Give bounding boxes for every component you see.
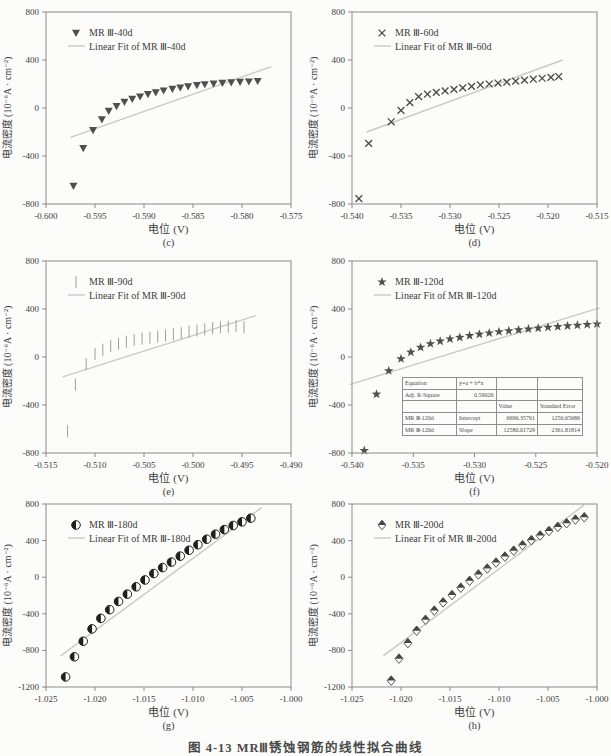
svg-text:Linear Fit of MR Ⅲ-120d: Linear Fit of MR Ⅲ-120d (395, 290, 496, 301)
legend: MR Ⅲ-60dLinear Fit of MR Ⅲ-60d (374, 27, 491, 52)
axes: -0.600-0.595-0.590-0.585-0.580-0.5758004… (23, 7, 304, 221)
axes: -1.025-1.020-1.015-1.010-1.005-1.0008004… (324, 499, 609, 704)
legend: MR Ⅲ-200dLinear Fit of MR Ⅲ-200d (374, 519, 496, 544)
svg-text:-1.000: -1.000 (585, 694, 609, 704)
chart-h-svg: -1.025-1.020-1.015-1.010-1.005-1.0008004… (306, 498, 611, 731)
y-axis-title: 电流密度 (10⁻⁶A · cm⁻²) (1, 306, 14, 409)
svg-text:-1.010: -1.010 (181, 694, 205, 704)
linear-fit-line (63, 316, 256, 377)
svg-text:-1.020: -1.020 (389, 694, 413, 704)
svg-text:电位 (V): 电位 (V) (454, 222, 494, 236)
svg-text:-1.005: -1.005 (230, 694, 254, 704)
stats-cell: MR Ⅲ-120d (403, 413, 457, 425)
svg-text:-400: -400 (23, 609, 40, 619)
svg-text:MR Ⅲ-180d: MR Ⅲ-180d (89, 519, 137, 530)
stats-cell: Standard Error (537, 401, 582, 413)
chart-c-svg: -0.600-0.595-0.590-0.585-0.580-0.5758004… (0, 0, 305, 249)
data-series (355, 73, 562, 202)
regression-stats-table: Equationy=a + b*xAdj. R-Square0.59026Val… (402, 377, 583, 436)
svg-text:(e): (e) (163, 486, 175, 498)
svg-text:0: 0 (341, 572, 346, 582)
svg-text:800: 800 (26, 256, 40, 266)
svg-text:-1.025: -1.025 (34, 694, 58, 704)
svg-text:400: 400 (332, 536, 346, 546)
svg-text:-400: -400 (329, 400, 346, 410)
stats-cell: y=a + b*x (457, 378, 497, 390)
axes: -0.540-0.535-0.530-0.525-0.520-0.5158004… (329, 7, 610, 221)
svg-text:-1200: -1200 (324, 682, 345, 692)
linear-fit-line (367, 60, 563, 132)
chart-f: -0.540-0.535-0.530-0.525-0.5208004000-40… (306, 249, 611, 498)
stats-cell (537, 378, 582, 390)
svg-text:0: 0 (35, 352, 40, 362)
svg-text:Linear Fit of MR Ⅲ-200d: Linear Fit of MR Ⅲ-200d (395, 533, 496, 544)
chart-h: -1.025-1.020-1.015-1.010-1.005-1.0008004… (306, 498, 611, 731)
svg-text:-0.515: -0.515 (585, 211, 609, 221)
svg-text:0: 0 (341, 103, 346, 113)
axes: -1.025-1.020-1.015-1.010-1.005-1.0008004… (18, 499, 303, 704)
svg-text:-800: -800 (23, 645, 40, 655)
svg-text:(h): (h) (468, 720, 481, 731)
svg-text:-0.580: -0.580 (230, 211, 254, 221)
stats-cell: 12580.01729 (496, 424, 537, 436)
svg-text:(f): (f) (469, 486, 480, 498)
stats-cell: 0.59026 (457, 389, 497, 401)
svg-text:-0.495: -0.495 (230, 460, 254, 470)
stats-cell: Intercept (457, 413, 497, 425)
svg-text:电位 (V): 电位 (V) (454, 705, 494, 719)
y-axis-title: 电流密度 (10⁻⁶A · cm⁻²) (307, 544, 320, 647)
svg-text:MR Ⅲ-120d: MR Ⅲ-120d (395, 276, 443, 287)
svg-text:-0.505: -0.505 (132, 460, 156, 470)
svg-text:-800: -800 (329, 645, 346, 655)
svg-text:-0.585: -0.585 (181, 211, 205, 221)
stats-cell (496, 378, 537, 390)
svg-text:-0.540: -0.540 (340, 211, 364, 221)
svg-text:-0.535: -0.535 (389, 211, 413, 221)
svg-text:MR Ⅲ-40d: MR Ⅲ-40d (89, 27, 132, 38)
stats-cell: 1250.65686 (537, 413, 582, 425)
y-axis-title: 电流密度 (10⁻⁶A · cm⁻²) (1, 57, 14, 160)
data-series (69, 78, 261, 190)
svg-text:-0.515: -0.515 (34, 460, 58, 470)
svg-text:Linear Fit of MR Ⅲ-40d: Linear Fit of MR Ⅲ-40d (89, 41, 185, 52)
svg-text:(c): (c) (163, 237, 175, 249)
svg-text:-1.010: -1.010 (487, 694, 511, 704)
chart-g: -1.025-1.020-1.015-1.010-1.005-1.0008004… (0, 498, 305, 731)
chart-e-svg: -0.515-0.510-0.505-0.500-0.495-0.4908004… (0, 249, 305, 498)
y-axis-title: 电流密度 (10⁻⁶A · cm⁻²) (1, 544, 14, 647)
svg-text:-0.500: -0.500 (181, 460, 205, 470)
svg-text:电位 (V): 电位 (V) (148, 471, 188, 485)
svg-text:-0.535: -0.535 (402, 460, 426, 470)
stats-cell: Adj. R-Square (403, 389, 457, 401)
svg-text:-800: -800 (23, 199, 40, 209)
stats-cell: 2361.81814 (537, 424, 582, 436)
svg-text:-0.575: -0.575 (279, 211, 303, 221)
legend: MR Ⅲ-180dLinear Fit of MR Ⅲ-180d (68, 519, 190, 544)
svg-text:-1.005: -1.005 (536, 694, 560, 704)
svg-text:-0.510: -0.510 (83, 460, 107, 470)
svg-text:-0.520: -0.520 (585, 460, 609, 470)
svg-text:-0.590: -0.590 (132, 211, 156, 221)
svg-text:-1.025: -1.025 (340, 694, 364, 704)
svg-text:MR Ⅲ-90d: MR Ⅲ-90d (89, 276, 132, 287)
svg-text:-0.600: -0.600 (34, 211, 58, 221)
svg-text:400: 400 (26, 55, 40, 65)
stats-cell (403, 401, 457, 413)
svg-text:-400: -400 (329, 609, 346, 619)
svg-text:-0.530: -0.530 (438, 211, 462, 221)
svg-text:-1.015: -1.015 (132, 694, 156, 704)
stats-cell: Value (496, 401, 537, 413)
stats-cell: MR Ⅲ-120d (403, 424, 457, 436)
legend: MR Ⅲ-120dLinear Fit of MR Ⅲ-120d (374, 276, 496, 301)
svg-text:400: 400 (26, 304, 40, 314)
stats-cell (457, 401, 497, 413)
chart-d-svg: -0.540-0.535-0.530-0.525-0.520-0.5158004… (306, 0, 611, 249)
svg-text:-1.000: -1.000 (279, 694, 303, 704)
svg-text:-1200: -1200 (18, 682, 39, 692)
svg-text:-1.020: -1.020 (83, 694, 107, 704)
axes: -0.540-0.535-0.530-0.525-0.5208004000-40… (329, 256, 610, 470)
svg-text:800: 800 (26, 499, 40, 509)
legend: MR Ⅲ-90dLinear Fit of MR Ⅲ-90d (68, 276, 185, 301)
stats-cell: Equation (403, 378, 457, 390)
